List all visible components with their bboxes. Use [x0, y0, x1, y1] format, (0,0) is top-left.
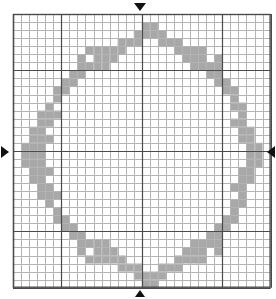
stitch-grid-canvas[interactable]: [12, 13, 272, 289]
center-marker-left-icon: [1, 146, 9, 158]
stitch-grid[interactable]: [12, 13, 272, 289]
center-marker-bottom-icon: [135, 290, 145, 297]
cross-stitch-chart: [0, 0, 276, 299]
center-marker-top-icon: [134, 3, 146, 11]
center-marker-right-icon: [267, 146, 275, 158]
